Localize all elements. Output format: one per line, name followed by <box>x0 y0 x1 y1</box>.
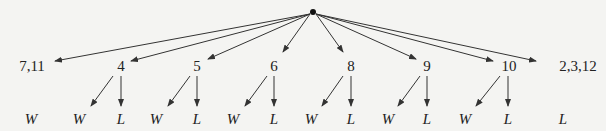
edge-to-outcome <box>322 76 343 106</box>
edge-root-to-2-3-12 <box>316 14 536 61</box>
node-label: 2,3,12 <box>559 58 597 75</box>
outcome-win: W <box>227 111 240 128</box>
outcome-win: W <box>25 111 38 128</box>
outcome-lose: L <box>117 111 125 128</box>
edge-to-outcome <box>168 76 190 106</box>
edge-to-outcome <box>398 76 420 106</box>
node-label: 7,11 <box>19 58 45 75</box>
edge-to-outcome <box>91 76 113 106</box>
outcome-lose: L <box>504 111 512 128</box>
node-label: 4 <box>117 58 125 75</box>
edge-to-outcome <box>245 76 267 106</box>
node-label: 5 <box>193 58 201 75</box>
outcome-lose: L <box>270 111 278 128</box>
outcome-win: W <box>305 111 318 128</box>
outcome-lose: L <box>347 111 355 128</box>
node-label: 10 <box>502 58 517 75</box>
outcome-win: W <box>459 111 472 128</box>
outcome-win: W <box>382 111 395 128</box>
edge-to-outcome <box>476 76 500 106</box>
node-label: 9 <box>423 58 431 75</box>
outcome-win: W <box>73 111 86 128</box>
edge-root-to-7-11 <box>55 14 310 61</box>
node-label: 8 <box>347 58 355 75</box>
node-label: 6 <box>270 58 278 75</box>
outcome-lose: L <box>193 111 201 128</box>
outcome-lose: L <box>423 111 431 128</box>
outcome-win: W <box>150 111 163 128</box>
root-node <box>310 9 316 15</box>
outcome-lose: L <box>559 111 567 128</box>
